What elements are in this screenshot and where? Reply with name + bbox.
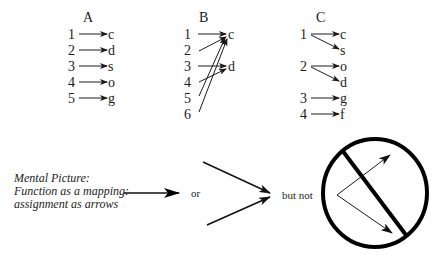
codomain-item: c (108, 27, 114, 42)
arrow-icon (311, 35, 339, 49)
mapping-arrows (198, 34, 227, 112)
codomain-labels: c s o d g f (340, 27, 347, 122)
domain-item: 1 (184, 27, 191, 42)
caption-line-3: assignment as arrows (14, 197, 119, 211)
codomain-labels: c d (228, 27, 235, 74)
domain-item: 3 (300, 91, 307, 106)
panel-b: B 1 2 3 4 5 6 c d (184, 10, 235, 122)
panel-title: A (83, 10, 94, 25)
panel-title: B (199, 10, 208, 25)
panel-c: C 1 2 3 4 c s o d g f (300, 10, 347, 122)
converging-arrows-icon (203, 162, 270, 225)
codomain-item: c (340, 27, 346, 42)
codomain-labels: c d s o g (108, 27, 115, 106)
caption-line-2: Function as a mapping: (13, 184, 129, 198)
codomain-item: d (228, 59, 235, 74)
domain-item: 2 (68, 43, 75, 58)
domain-item: 1 (68, 27, 75, 42)
domain-item: 4 (184, 75, 191, 90)
codomain-item: d (108, 43, 115, 58)
domain-labels: 1 2 3 4 (300, 27, 307, 122)
domain-item: 2 (300, 59, 307, 74)
arrow-icon (199, 38, 225, 96)
mental-picture-caption: Mental Picture: Function as a mapping: a… (13, 171, 129, 211)
codomain-item: g (108, 91, 115, 106)
function-mapping-diagram: A 1 2 3 4 5 c d s o g B 1 2 3 4 (0, 0, 442, 262)
domain-item: 4 (68, 75, 75, 90)
connector-or: or (191, 187, 201, 199)
domain-item: 3 (68, 59, 75, 74)
connector-but-not: but not (282, 189, 313, 201)
prohibited-diverging-arrows-icon (323, 139, 427, 247)
domain-item: 6 (184, 107, 191, 122)
arrow-icon (199, 39, 227, 112)
codomain-item: c (228, 27, 234, 42)
domain-labels: 1 2 3 4 5 6 (184, 27, 191, 122)
domain-item: 5 (68, 91, 75, 106)
domain-item: 5 (184, 91, 191, 106)
codomain-item: g (340, 91, 347, 106)
panel-title: C (316, 10, 325, 25)
codomain-item: s (340, 43, 345, 58)
codomain-item: s (108, 59, 113, 74)
codomain-item: f (340, 107, 345, 122)
domain-item: 2 (184, 43, 191, 58)
domain-item: 3 (184, 59, 191, 74)
arrow-icon (311, 67, 339, 81)
domain-item: 1 (300, 27, 307, 42)
domain-labels: 1 2 3 4 5 (68, 27, 75, 106)
codomain-item: d (340, 75, 347, 90)
mapping-arrows (79, 34, 107, 98)
mapping-arrows (311, 34, 339, 114)
panel-a: A 1 2 3 4 5 c d s o g (68, 10, 115, 106)
codomain-item: o (108, 75, 115, 90)
caption-line-1: Mental Picture: (13, 171, 90, 185)
codomain-item: o (340, 59, 347, 74)
domain-item: 4 (300, 107, 307, 122)
